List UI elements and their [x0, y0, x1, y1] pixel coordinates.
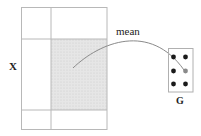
group-g: [169, 49, 194, 93]
group-node: [171, 82, 176, 87]
edge-label: mean: [116, 25, 140, 37]
matrix-label: X: [9, 60, 17, 72]
group-node: [171, 69, 176, 74]
group-node: [171, 55, 176, 60]
group-node-target: [183, 69, 188, 74]
group-node: [183, 82, 188, 87]
diagram-canvas: X mean G: [0, 0, 201, 136]
group-label: G: [176, 95, 184, 106]
group-node: [183, 55, 188, 60]
matrix-x: [22, 8, 108, 130]
